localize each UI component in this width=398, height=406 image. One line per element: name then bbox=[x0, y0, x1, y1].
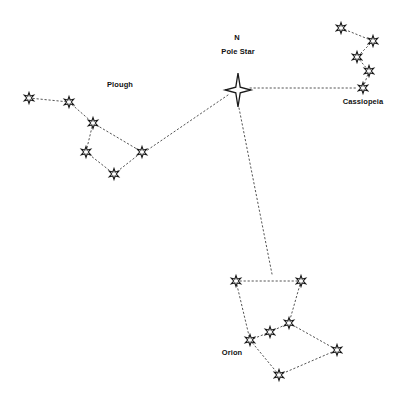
constellation-link-cassiopeia bbox=[341, 28, 373, 41]
stars-layer bbox=[24, 23, 378, 381]
star-icon bbox=[81, 147, 91, 158]
label-pole-star: Pole Star bbox=[221, 48, 254, 56]
constellation-link-plough bbox=[86, 152, 114, 174]
label-cassiopeia: Cassiopeia bbox=[343, 98, 384, 106]
star-icon bbox=[231, 276, 241, 287]
label-north: N bbox=[234, 34, 240, 42]
constellation-lines-layer bbox=[29, 28, 373, 375]
constellation-link-orion bbox=[279, 350, 337, 375]
label-plough: Plough bbox=[107, 81, 133, 89]
star-icon bbox=[137, 147, 147, 158]
star-chart: NPole StarPloughCassiopeiaOrion bbox=[0, 0, 398, 406]
star-icon bbox=[109, 169, 119, 180]
constellation-link-plough bbox=[93, 123, 142, 152]
constellation-link-orion bbox=[250, 340, 279, 375]
star-icon bbox=[284, 318, 294, 329]
constellation-link-plough bbox=[69, 102, 93, 123]
star-icon bbox=[24, 93, 34, 104]
pole-star-icon bbox=[225, 73, 251, 107]
sky-canvas bbox=[0, 0, 398, 406]
constellation-link-orion bbox=[289, 281, 301, 323]
constellation-link-plough bbox=[114, 152, 142, 174]
star-icon bbox=[265, 327, 275, 338]
star-icon bbox=[332, 345, 342, 356]
star-icon bbox=[88, 118, 98, 129]
constellation-link-plough bbox=[86, 123, 93, 152]
pointer-to-orion bbox=[239, 108, 272, 274]
constellation-link-orion bbox=[236, 281, 250, 340]
constellation-link-orion bbox=[289, 323, 337, 350]
label-orion: Orion bbox=[222, 349, 243, 357]
star-icon bbox=[358, 83, 368, 94]
star-icon bbox=[336, 23, 346, 34]
pointer-to-plough bbox=[146, 95, 228, 151]
